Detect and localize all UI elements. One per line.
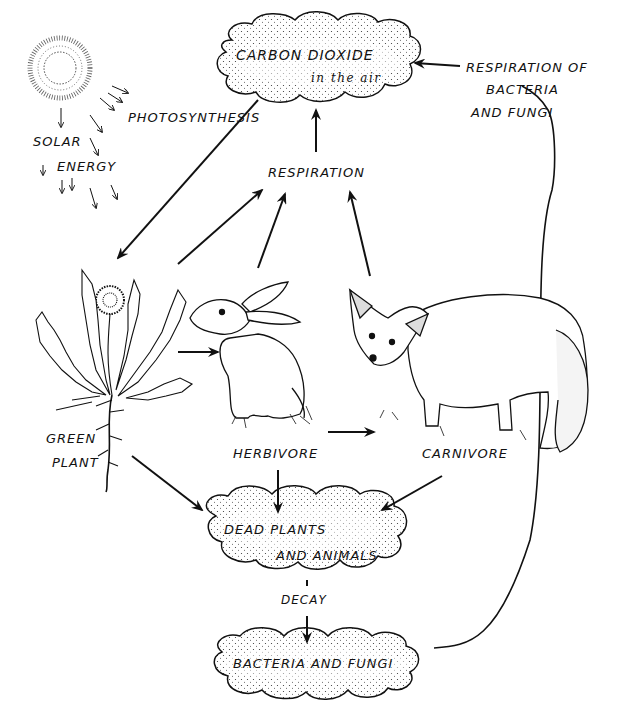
sun-icon xyxy=(30,38,90,98)
co2-label: CARBON DIOXIDE xyxy=(236,48,374,62)
arrow-carnivore-respiration xyxy=(350,192,370,276)
dead-label-2: AND ANIMALS xyxy=(276,549,378,562)
rabbit-illustration xyxy=(190,282,312,428)
arrow-bacteria-resp-co2 xyxy=(415,63,460,66)
carnivore-label: CARNIVORE xyxy=(422,447,508,460)
green-plant-label-2: PLANT xyxy=(52,456,99,469)
fox-illustration xyxy=(350,290,588,452)
bacteria-fungi-label: BACTERIA AND FUNGI xyxy=(233,657,393,670)
solar-label: SOLAR xyxy=(33,135,82,148)
respiration-label: RESPIRATION xyxy=(268,166,365,179)
resp-bacteria-label-1: RESPIRATION OF xyxy=(466,61,588,74)
resp-bacteria-label-3: AND FUNGI xyxy=(471,106,553,119)
co2-sublabel: in the air xyxy=(311,72,382,84)
green-plant-label-1: GREEN xyxy=(46,432,96,445)
decay-label: DECAY xyxy=(281,594,327,606)
arrow-plant-dead xyxy=(132,456,202,510)
herbivore-label: HERBIVORE xyxy=(233,447,318,460)
arrow-plant-respiration xyxy=(178,190,262,264)
arrow-carnivore-dead xyxy=(382,476,442,510)
carbon-cycle-diagram: CARBON DIOXIDE in the air PHOTOSYNTHESIS… xyxy=(0,0,620,713)
arrow-herbivore-respiration xyxy=(258,194,285,268)
energy-label: ENERGY xyxy=(57,160,116,173)
photosynthesis-label: PHOTOSYNTHESIS xyxy=(128,111,260,124)
resp-bacteria-label-2: BACTERIA xyxy=(486,83,559,96)
dead-label-1: DEAD PLANTS xyxy=(224,523,326,536)
